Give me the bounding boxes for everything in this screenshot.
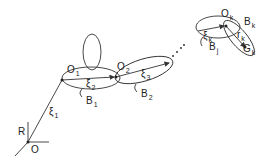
- label-xik-text: ξ: [203, 30, 207, 41]
- point-O2: [115, 76, 118, 79]
- label-O-text: O: [31, 144, 39, 155]
- link-ellipse-upper: [83, 34, 101, 70]
- label-Gk-sub: k: [252, 49, 256, 56]
- label-Gk: Gk: [243, 44, 255, 54]
- label-xi2: ξ2: [86, 79, 95, 89]
- ellipsis-dot: [180, 47, 182, 49]
- point-O: [27, 141, 30, 144]
- label-R: R: [18, 127, 25, 137]
- label-Ok-sub: k: [230, 14, 234, 21]
- point-Ok: [225, 25, 228, 28]
- label-Gk-text: G: [243, 43, 251, 54]
- label-xik: ξk: [203, 31, 212, 41]
- label-xi1-sub: 1: [54, 112, 58, 119]
- label-rk: rk: [237, 30, 245, 40]
- label-O1-sub: 1: [76, 70, 80, 77]
- ellipsis-dot: [176, 51, 178, 53]
- label-O1-text: O: [67, 64, 75, 75]
- label-xi2-sub: 2: [91, 84, 95, 91]
- ellipsis-dot: [183, 44, 185, 46]
- frame-axis-diagonal: [15, 142, 28, 156]
- label-O1: O1: [67, 65, 80, 75]
- label-xi1-text: ξ: [49, 106, 53, 117]
- label-xi3-text: ξ: [141, 68, 145, 79]
- label-B1-text: B: [86, 95, 93, 106]
- label-R-text: R: [18, 126, 25, 137]
- point-O1: [61, 79, 64, 82]
- label-B1-sub: 1: [94, 101, 98, 108]
- label-xi3-sub: 3: [146, 74, 150, 81]
- label-B2-sub: 2: [149, 94, 153, 101]
- ellipsis-dot: [172, 55, 174, 57]
- label-Bj-text: B: [209, 41, 216, 52]
- label-B1: B1: [86, 96, 98, 106]
- label-xi2-text: ξ: [86, 78, 90, 89]
- label-Bk-text: B: [244, 16, 251, 27]
- label-rk-text: r: [237, 29, 240, 40]
- label-O: O: [31, 145, 39, 155]
- label-xi3: ξ3: [141, 69, 150, 79]
- label-Bk: Bk: [244, 17, 255, 27]
- label-B2: B2: [141, 89, 153, 99]
- label-O2: O2: [117, 62, 130, 72]
- label-rk-sub: k: [241, 35, 245, 42]
- label-Bk-sub: k: [252, 22, 256, 29]
- label-Bj: Bj: [209, 42, 218, 52]
- label-Ok: Ok: [221, 9, 233, 19]
- label-O2-text: O: [117, 61, 125, 72]
- label-O2-sub: 2: [126, 67, 130, 74]
- label-Ok-text: O: [221, 8, 229, 19]
- kinematic-chain-diagram: [0, 0, 267, 167]
- label-xi1: ξ1: [49, 107, 58, 117]
- label-B2-text: B: [141, 88, 148, 99]
